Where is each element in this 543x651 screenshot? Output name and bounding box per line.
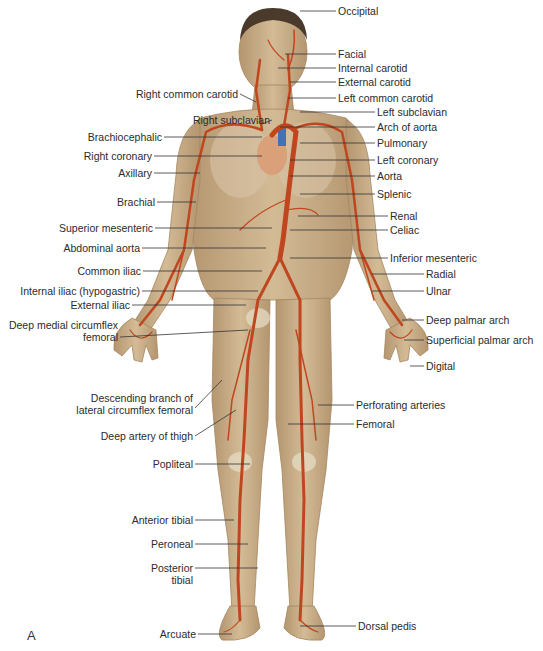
artery-label: Deep palmar arch	[426, 314, 509, 326]
artery-label: lateral circumflex femoral	[76, 404, 193, 416]
artery-label: Internal carotid	[338, 62, 407, 74]
artery-label: Right subclavian	[193, 114, 270, 126]
artery-label: Left coronary	[377, 154, 438, 166]
artery-label: tibial	[171, 574, 193, 586]
artery-label: Brachial	[117, 196, 155, 208]
artery-label: Arch of aorta	[377, 121, 437, 133]
artery-label: femoral	[83, 331, 118, 343]
artery-label: Right common carotid	[136, 88, 238, 100]
artery-label: Celiac	[390, 224, 419, 236]
artery-label: Left subclavian	[377, 106, 447, 118]
artery-label: Internal iliac (hypogastric)	[20, 285, 140, 297]
artery-label: External carotid	[338, 76, 411, 88]
artery-label: Axillary	[118, 167, 152, 179]
artery-label: Occipital	[338, 5, 378, 17]
artery-label: Deep medial circumflex	[9, 319, 118, 331]
artery-label: Facial	[338, 48, 366, 60]
artery-label: Anterior tibial	[132, 514, 193, 526]
artery-label: Inferior mesenteric	[390, 252, 477, 264]
artery-label: Radial	[426, 268, 456, 280]
artery-label: Left common carotid	[338, 92, 433, 104]
artery-label: External iliac	[70, 299, 130, 311]
artery-label: Ulnar	[426, 285, 451, 297]
artery-label: Splenic	[377, 188, 411, 200]
artery-label: Posterior	[151, 562, 193, 574]
artery-label: Dorsal pedis	[358, 620, 416, 632]
artery-label: Common iliac	[77, 265, 141, 277]
artery-label: Brachiocephalic	[88, 131, 162, 143]
artery-label: Pulmonary	[377, 137, 427, 149]
artery-label: Arcuate	[160, 628, 196, 640]
artery-label: Superior mesenteric	[59, 222, 153, 234]
artery-label: Deep artery of thigh	[101, 430, 193, 442]
artery-label: Aorta	[377, 170, 402, 182]
artery-label: Popliteal	[153, 458, 193, 470]
artery-label: Abdominal aorta	[64, 242, 140, 254]
artery-label: Renal	[390, 210, 417, 222]
artery-label: Superficial palmar arch	[426, 334, 533, 346]
artery-label: Perforating arteries	[356, 399, 445, 411]
artery-label: Descending branch of	[91, 392, 193, 404]
artery-label: Digital	[426, 360, 455, 372]
artery-label: Femoral	[356, 418, 395, 430]
artery-label: Right coronary	[84, 150, 152, 162]
artery-label: Peroneal	[151, 538, 193, 550]
panel-letter: A	[27, 628, 36, 643]
